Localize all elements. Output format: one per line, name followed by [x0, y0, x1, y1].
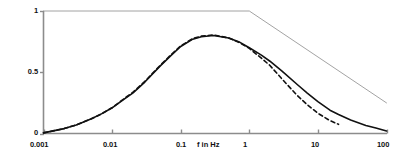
x-tick-label-0-001: 0.001 — [30, 140, 48, 149]
data-series-group — [44, 11, 387, 133]
x-tick-label-100: 100 — [377, 140, 389, 149]
series-envelope-limit — [44, 11, 387, 103]
x-axis-title: f in Hz — [197, 140, 220, 149]
series-response-solid — [44, 36, 387, 133]
x-tick-label-1: 1 — [243, 140, 247, 149]
series-response-dashed — [44, 35, 339, 133]
x-tick-label-0-1: 0.1 — [176, 140, 186, 149]
y-tick-label-1: 1 — [22, 6, 38, 15]
x-tick-label-0-01: 0.01 — [103, 140, 117, 149]
chart-container: 1 0.5 0 0.001 0.01 0.1 1 10 100 f in Hz — [0, 0, 412, 159]
y-tick-label-0: 0 — [22, 128, 38, 137]
x-tick-label-10: 10 — [311, 140, 319, 149]
plot-area — [0, 0, 412, 159]
y-tick-label-0-5: 0.5 — [14, 67, 38, 76]
